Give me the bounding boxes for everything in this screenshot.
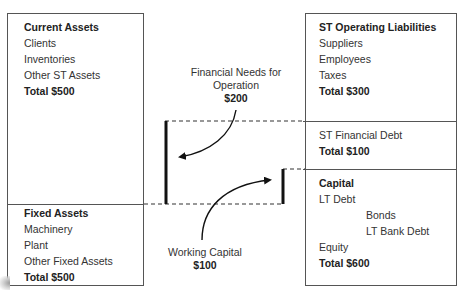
corner-shadow [0,276,10,290]
working-capital-arrow-icon [202,180,270,240]
financial-needs-caption: Financial Needs for Operation $200 [181,66,291,105]
working-capital-caption: Working Capital $100 [160,246,250,272]
financial-needs-line1: Financial Needs for [181,66,291,79]
financial-needs-line2: Operation [181,79,291,92]
financial-needs-arrow-icon [180,110,236,157]
working-capital-line1: Working Capital [160,246,250,259]
working-capital-value: $100 [160,259,250,272]
financial-needs-value: $200 [181,92,291,105]
